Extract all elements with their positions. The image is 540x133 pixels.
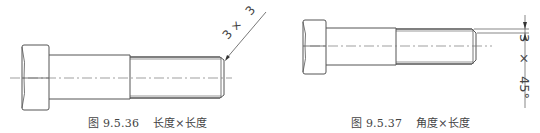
figure-9-5-37: 3 × 45° 图 9.5.37 角度×长度 [270, 0, 540, 133]
dim-separator: × [517, 53, 532, 64]
dim-angle-value: 45° [517, 76, 532, 99]
bolt-head [303, 20, 326, 74]
arrowhead-icon [225, 55, 230, 61]
dim-separator: × [228, 17, 245, 34]
arrowhead-down-icon [523, 22, 527, 29]
figure-9-5-36: 3 × 3 图 9.5.36 长度×长度 [0, 0, 270, 133]
caption-number: 图 9.5.37 [351, 117, 402, 130]
caption-text: 角度×长度 [416, 117, 470, 130]
dim-length-value: 3 [517, 34, 532, 42]
caption-text: 长度×长度 [153, 117, 207, 130]
figure-caption: 图 9.5.37 角度×长度 [351, 114, 470, 130]
dim-second-value: 3 [243, 3, 259, 18]
bolt-head [22, 45, 49, 110]
caption-number: 图 9.5.36 [88, 117, 139, 130]
figure-caption: 图 9.5.36 长度×长度 [88, 114, 207, 130]
